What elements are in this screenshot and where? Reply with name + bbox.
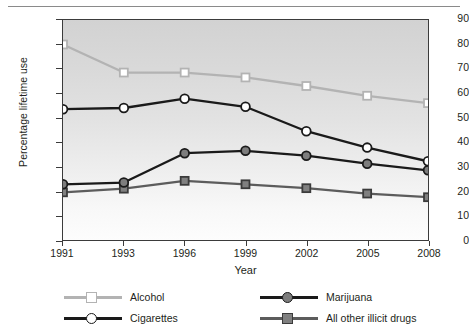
data-point-marker <box>241 146 250 155</box>
x-tick-mark <box>368 241 369 246</box>
data-point-marker <box>119 104 128 113</box>
legend-swatch-cigarettes <box>64 311 122 325</box>
x-tick-mark <box>429 241 430 246</box>
data-point-marker <box>180 94 189 103</box>
legend-swatch-marijuana <box>260 290 318 304</box>
data-point-marker <box>181 69 189 77</box>
data-point-marker <box>119 178 128 187</box>
data-point-marker <box>242 180 250 188</box>
chart-figure: Percentage lifetime use 0102030405060708… <box>0 0 469 336</box>
x-tick-label: 2002 <box>277 248 337 259</box>
square-marker-icon <box>282 313 293 324</box>
x-tick-label: 2008 <box>399 248 459 259</box>
data-point-marker <box>302 151 311 160</box>
legend-item-cigarettes[interactable]: Cigarettes <box>64 309 178 327</box>
data-point-marker <box>120 69 128 77</box>
legend-swatch-alcohol <box>64 290 122 304</box>
series-all-other-illicit-drugs <box>62 177 429 201</box>
data-point-marker <box>180 149 189 158</box>
data-point-marker <box>363 92 371 100</box>
data-point-marker <box>181 177 189 185</box>
x-axis-title: Year <box>62 264 429 276</box>
data-point-marker <box>424 99 429 107</box>
x-tick-label: 1993 <box>93 248 153 259</box>
x-tick-label: 1996 <box>154 248 214 259</box>
legend-item-marijuana[interactable]: Marijuana <box>260 288 372 306</box>
x-tick-label: 1991 <box>32 248 92 259</box>
data-point-marker <box>302 127 311 136</box>
x-tick-mark <box>123 241 124 246</box>
series-layer <box>63 20 428 240</box>
series-alcohol <box>62 40 429 107</box>
x-tick-mark <box>184 241 185 246</box>
data-point-marker <box>424 157 429 166</box>
legend-label-all-other-illicit-drugs: All other illicit drugs <box>326 312 416 324</box>
legend-swatch-all-other-illicit-drugs <box>260 311 318 325</box>
square-marker-icon <box>86 292 97 303</box>
y-axis-line <box>62 19 63 241</box>
data-point-marker <box>241 102 250 111</box>
data-point-marker <box>302 82 310 90</box>
circle-marker-icon <box>282 292 293 303</box>
data-point-marker <box>424 193 429 201</box>
data-point-marker <box>302 184 310 192</box>
x-tick-label: 2005 <box>338 248 398 259</box>
x-tick-mark <box>307 241 308 246</box>
x-tick-label: 1999 <box>216 248 276 259</box>
x-tick-mark <box>246 241 247 246</box>
legend-label-marijuana: Marijuana <box>326 291 372 303</box>
x-tick-mark <box>62 241 63 246</box>
chart-legend: Alcohol Cigarettes Marijuana All other i… <box>64 288 444 330</box>
legend-label-cigarettes: Cigarettes <box>130 312 178 324</box>
y-axis-title: Percentage lifetime use <box>17 42 29 182</box>
top-divider-rule <box>8 6 460 7</box>
data-point-marker <box>363 143 372 152</box>
data-point-marker <box>242 73 250 81</box>
legend-item-alcohol[interactable]: Alcohol <box>64 288 164 306</box>
legend-item-all-other-illicit-drugs[interactable]: All other illicit drugs <box>260 309 416 327</box>
data-point-marker <box>363 159 372 168</box>
plot-area <box>62 19 429 241</box>
circle-marker-icon <box>86 313 97 324</box>
data-point-marker <box>424 166 429 175</box>
legend-label-alcohol: Alcohol <box>130 291 164 303</box>
data-point-marker <box>363 190 371 198</box>
